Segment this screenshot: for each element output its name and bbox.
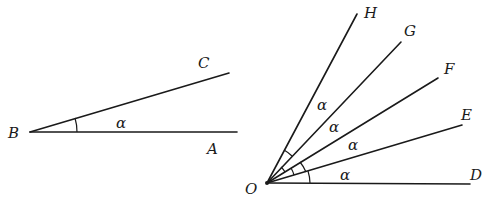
angle-label-goh: α <box>317 96 327 114</box>
label-o: O <box>245 180 257 198</box>
angle-abc: B A C α <box>7 54 237 158</box>
diagram-svg: B A C α O D E F G H α α α <box>0 0 487 205</box>
angle-arc-fog <box>281 167 285 172</box>
label-h: H <box>363 4 378 22</box>
ray-bc <box>30 73 229 132</box>
angle-arc-doe <box>308 171 310 183</box>
label-f: F <box>443 60 455 78</box>
label-e: E <box>460 106 472 124</box>
angle-arc-abc <box>75 118 77 132</box>
angle-arc-eof-outer <box>300 162 306 172</box>
angle-label-eof: α <box>348 136 358 154</box>
angle-label-alpha: α <box>116 114 126 132</box>
label-a: A <box>205 140 218 158</box>
label-g: G <box>404 22 416 40</box>
vertex-o-dot <box>265 181 269 185</box>
ray-oh <box>267 14 357 183</box>
label-d: D <box>469 166 482 184</box>
label-c: C <box>198 54 210 72</box>
ray-oe <box>267 125 462 183</box>
angle-label-doe: α <box>340 166 350 184</box>
label-b: B <box>7 124 19 142</box>
angle-fan-o: O D E F G H α α α α <box>245 4 482 198</box>
angle-diagram: B A C α O D E F G H α α α <box>0 0 487 205</box>
angle-arc-eof <box>291 168 294 175</box>
angle-arc-goh <box>284 150 292 156</box>
ray-od <box>267 183 470 184</box>
angle-label-fog: α <box>329 118 339 136</box>
